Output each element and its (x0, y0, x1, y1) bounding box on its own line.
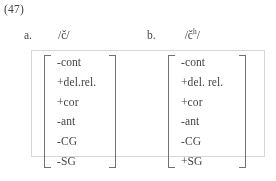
feature-row: -CG (181, 135, 236, 148)
feature-row: -cont (57, 56, 106, 69)
item-label-b: b. (147, 28, 156, 42)
feature-matrix-a: -cont +del.rel. +cor -ant -CG -SG (44, 55, 116, 168)
figure-page: (47) a./č/ b./čh/ -cont +del.rel. +cor -… (0, 0, 276, 181)
feature-row: +SG (181, 155, 236, 168)
feature-row: -SG (57, 155, 106, 168)
feature-row: +cor (181, 96, 236, 109)
phoneme-a-close-slash: / (66, 29, 69, 41)
feature-row: -ant (57, 115, 106, 128)
phoneme-b-close-slash: / (197, 29, 200, 41)
item-label-a: a. (24, 28, 32, 42)
feature-matrix-b: -cont +del. rel. +cor -ant -CG +SG (168, 55, 246, 168)
left-bracket-b (168, 55, 175, 168)
right-bracket-b (239, 55, 246, 168)
example-number: (47) (4, 3, 24, 16)
phoneme-a: /č/ (58, 28, 70, 42)
column-header-b: b./čh/ (147, 28, 200, 42)
phoneme-b: /čh/ (185, 28, 200, 42)
feature-row: +del. rel. (181, 76, 236, 89)
feature-row: -ant (181, 115, 236, 128)
feature-row: +cor (57, 96, 106, 109)
feature-list-a: -cont +del.rel. +cor -ant -CG -SG (57, 55, 106, 168)
left-bracket-a (44, 55, 51, 168)
column-header-a: a./č/ (24, 28, 70, 42)
feature-row: -CG (57, 135, 106, 148)
feature-list-b: -cont +del. rel. +cor -ant -CG +SG (181, 55, 236, 168)
feature-row: -cont (181, 56, 236, 69)
feature-row: +del.rel. (57, 76, 106, 89)
right-bracket-a (109, 55, 116, 168)
